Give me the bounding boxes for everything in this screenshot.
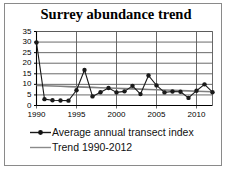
chart-legend: Average annual transect index Trend 1990… [30, 125, 210, 155]
x-tick-label: 2000 [103, 110, 131, 119]
legend-key-line-marker-icon [30, 127, 51, 138]
legend-label-trend: Trend 1990-2012 [52, 142, 132, 153]
y-tick-label: 15 [18, 69, 32, 78]
x-axis-ticks [37, 32, 197, 109]
y-tick-label: 35 [18, 27, 32, 36]
y-tick-label: 5 [18, 90, 32, 99]
legend-key-line-icon [30, 142, 51, 153]
y-tick-label: 25 [18, 48, 32, 57]
legend-item-average-annual-transect-index: Average annual transect index [30, 125, 210, 140]
chart-figure: Surrey abundance trend 05101520253035 19… [0, 0, 227, 170]
x-tick-label: 2010 [183, 110, 211, 119]
axis-lines [34, 32, 213, 106]
x-tick-label: 1990 [23, 110, 51, 119]
x-tick-label: 2005 [143, 110, 171, 119]
y-tick-label: 30 [18, 37, 32, 46]
y-tick-label: 20 [18, 58, 32, 67]
y-tick-label: 10 [18, 79, 32, 88]
legend-label-average-annual-transect-index: Average annual transect index [52, 127, 194, 138]
series-transect-index-markers [34, 40, 214, 103]
gridlines [37, 32, 213, 95]
y-tick-label: 0 [18, 101, 32, 110]
x-tick-label: 1995 [63, 110, 91, 119]
legend-item-trend: Trend 1990-2012 [30, 140, 210, 155]
